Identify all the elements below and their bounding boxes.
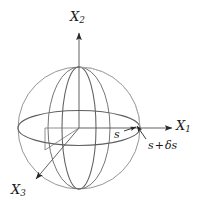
figure-container: X1 X2 X3 s s+δs xyxy=(0,0,210,209)
axis-label-x3-base: X xyxy=(11,182,20,197)
axis-label-x3-subscript: 3 xyxy=(20,188,26,198)
perturbed-radius-base: s xyxy=(148,139,154,152)
axis-label-x2-base: X xyxy=(70,9,79,24)
perturbed-radius-delta: δs xyxy=(165,139,177,152)
axis-label-x1-subscript: 1 xyxy=(185,124,191,134)
axis-label-x1: X1 xyxy=(176,119,191,134)
perturbed-radius-operator: + xyxy=(154,139,165,152)
axis-label-x3: X3 xyxy=(11,183,26,198)
perturbed-radius-label: s+δs xyxy=(148,140,177,151)
axis-label-x2: X2 xyxy=(70,10,85,25)
radius-label: s xyxy=(114,129,120,140)
axis-label-x2-subscript: 2 xyxy=(79,15,85,25)
sphere-diagram-svg xyxy=(0,0,210,209)
axis-label-x1-base: X xyxy=(176,118,185,133)
axis-lines xyxy=(36,33,172,179)
